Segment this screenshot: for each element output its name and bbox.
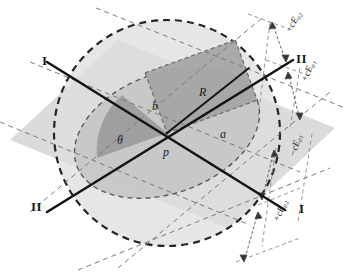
center-point-marker [165,131,168,134]
diagram-canvas [0,0,345,279]
